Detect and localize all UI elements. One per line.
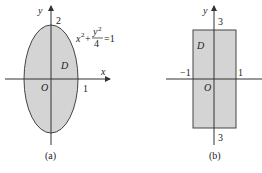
caption-a: (a) xyxy=(45,150,56,162)
x-axis-label: x xyxy=(100,66,106,77)
region-label: D xyxy=(60,60,69,71)
tick-label-y-bottom: 3 xyxy=(218,132,223,143)
eq-plus: + xyxy=(85,33,91,44)
diagram-canvas: y x 2 1 O D x 2 + y 2 4 =1 (a) y 3 3 −1 … xyxy=(0,0,262,173)
figure-a: y x 2 1 O D x 2 + y 2 4 =1 (a) xyxy=(5,5,115,162)
eq-frac-den: 4 xyxy=(94,38,99,49)
eq-rhs: =1 xyxy=(104,33,115,44)
tick-label-x-right: 1 xyxy=(238,67,243,78)
region-label: D xyxy=(196,40,205,51)
tick-label-y-top: 3 xyxy=(218,16,223,27)
y-axis-label: y xyxy=(202,5,208,16)
tick-label-x-right: 1 xyxy=(83,83,88,94)
equation: x 2 + y 2 4 =1 xyxy=(75,25,115,49)
origin-label: O xyxy=(204,82,211,93)
y-axis-label: y xyxy=(37,5,43,16)
tick-label-y-top: 2 xyxy=(56,15,61,26)
origin-label: O xyxy=(41,82,48,93)
eq-frac-num-exp: 2 xyxy=(98,25,102,33)
caption-b: (b) xyxy=(209,150,221,162)
tick-label-x-left: −1 xyxy=(180,67,191,78)
figure-b: y 3 3 −1 1 O D (b) xyxy=(166,5,262,162)
